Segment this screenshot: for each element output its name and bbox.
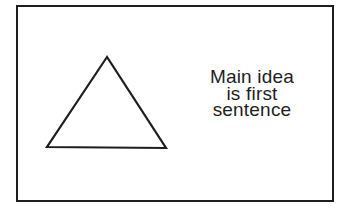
caption-text: Main idea is first sentence xyxy=(192,69,312,119)
caption-line-3: sentence xyxy=(192,102,312,119)
